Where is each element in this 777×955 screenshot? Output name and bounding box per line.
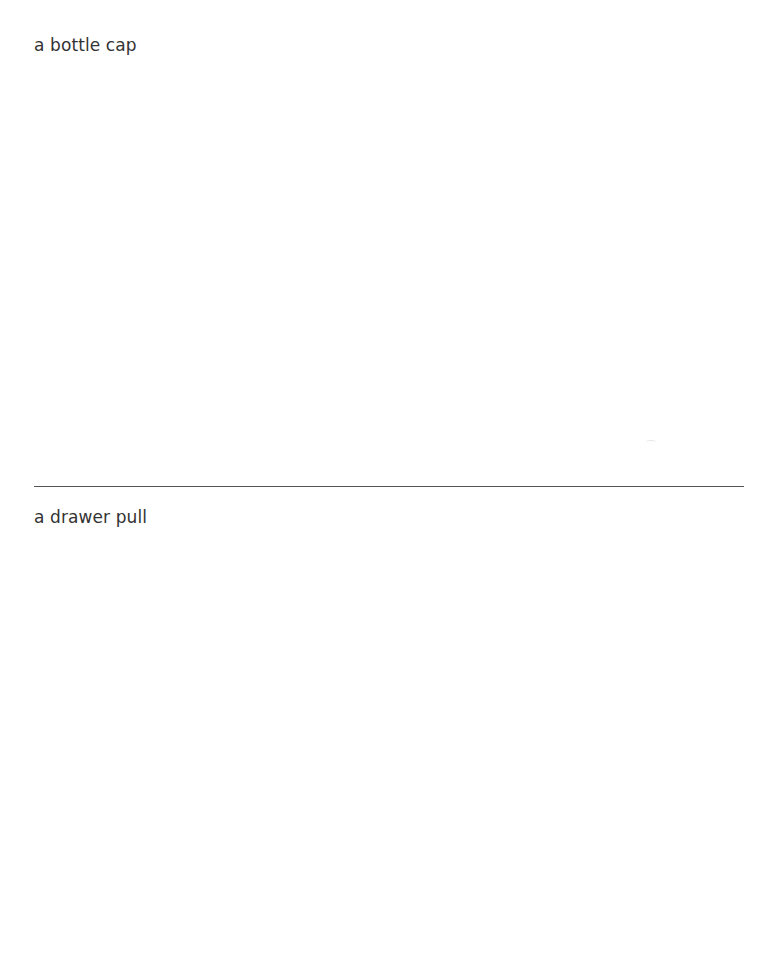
section-label: a drawer pull bbox=[34, 507, 744, 527]
section-bottle-cap: a bottle cap bbox=[34, 35, 744, 475]
section-label: a bottle cap bbox=[34, 35, 744, 55]
section-drawer-pull: a drawer pull bbox=[34, 507, 744, 947]
section-divider bbox=[34, 486, 744, 487]
faint-mark bbox=[646, 440, 656, 444]
